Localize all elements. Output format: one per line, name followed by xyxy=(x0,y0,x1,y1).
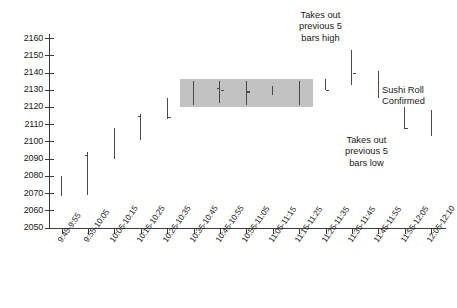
annotation-line: previous 5 xyxy=(345,146,388,157)
annotation-line: Confirmed xyxy=(382,96,425,107)
y-axis-tick-label: 2110 xyxy=(0,120,43,129)
y-axis-tick xyxy=(45,107,54,108)
annotation-takes-out-previous-5-bars-high: Takes outprevious 5bars high xyxy=(299,10,342,44)
ohlc-open-tick xyxy=(138,116,141,117)
y-axis-line xyxy=(49,34,50,229)
y-axis-tick-label-text: 2130 xyxy=(24,85,43,94)
y-axis-tick xyxy=(45,38,54,39)
annotation-takes-out-previous-5-bars-low: Takes outprevious 5bars low xyxy=(345,135,388,169)
ohlc-close-tick xyxy=(221,90,224,91)
y-axis-tick xyxy=(45,124,54,125)
y-axis-tick-label-text: 2140 xyxy=(24,68,43,77)
annotation-line: bars high xyxy=(299,33,342,44)
y-axis-tick xyxy=(45,228,54,229)
annotation-line: bars low xyxy=(345,158,388,169)
y-axis-tick-label: 2160 xyxy=(0,34,43,43)
ohlc-bar xyxy=(219,81,220,103)
y-axis-tick-label: 2150 xyxy=(0,51,43,60)
ohlc-close-tick xyxy=(247,91,250,92)
y-axis-tick xyxy=(45,73,54,74)
ohlc-bar xyxy=(246,81,247,105)
y-axis-tick-label-text: 2090 xyxy=(24,154,43,163)
ohlc-close-tick xyxy=(405,128,408,129)
y-axis-tick-label-text: 2110 xyxy=(24,120,43,129)
ohlc-open-tick xyxy=(217,88,220,89)
ohlc-bar xyxy=(378,71,379,99)
y-axis-tick-label: 2100 xyxy=(0,137,43,146)
y-axis-tick xyxy=(45,210,54,211)
ohlc-bar xyxy=(87,152,88,195)
y-axis-tick-label: 2070 xyxy=(0,189,43,198)
annotation-line: Sushi Roll xyxy=(382,85,425,96)
ohlc-close-tick xyxy=(353,73,356,74)
ohlc-bar xyxy=(272,86,273,95)
y-axis-tick-label: 2060 xyxy=(0,206,43,215)
annotation-line: Takes out xyxy=(299,10,342,21)
ohlc-close-tick xyxy=(168,117,171,118)
ohlc-bar xyxy=(140,114,141,140)
ohlc-bar xyxy=(404,107,405,129)
ohlc-bar xyxy=(299,81,300,105)
y-axis-tick-label: 2090 xyxy=(0,154,43,163)
ohlc-bar xyxy=(114,128,115,159)
y-axis-tick xyxy=(45,55,54,56)
y-axis-tick-label: 2130 xyxy=(0,85,43,94)
ohlc-bar xyxy=(325,79,326,89)
ohlc-bar xyxy=(431,110,432,136)
y-axis-tick-label-text: 2070 xyxy=(24,189,43,198)
y-axis-tick xyxy=(45,90,54,91)
ohlc-bar xyxy=(351,50,352,85)
y-axis-tick-label-text: 2080 xyxy=(24,171,43,180)
ohlc-open-tick xyxy=(85,155,88,156)
y-axis-tick-label-text: 2100 xyxy=(24,137,43,146)
y-axis-tick-label: 2080 xyxy=(0,171,43,180)
annotation-sushi-roll-confirmed: Sushi RollConfirmed xyxy=(382,85,425,108)
y-axis-tick-label-text: 2060 xyxy=(24,206,43,215)
annotation-line: Takes out xyxy=(345,135,388,146)
ohlc-bar xyxy=(61,176,62,197)
y-axis-tick-label-text: 2120 xyxy=(24,102,43,111)
y-axis-tick xyxy=(45,193,54,194)
y-axis-tick xyxy=(45,176,54,177)
ohlc-close-tick xyxy=(326,90,329,91)
y-axis-tick-label: 2050 xyxy=(0,223,43,232)
ohlc-bar xyxy=(167,98,168,119)
y-axis-tick-label: 2120 xyxy=(0,102,43,111)
ohlc-bar xyxy=(193,81,194,105)
y-axis-tick-label-text: 2050 xyxy=(24,223,43,232)
y-axis-tick xyxy=(45,141,54,142)
annotation-line: previous 5 xyxy=(299,21,342,32)
y-axis-tick xyxy=(45,159,54,160)
y-axis-tick-label-text: 2160 xyxy=(24,34,43,43)
y-axis-tick-label-text: 2150 xyxy=(24,51,43,60)
y-axis-tick-label: 2140 xyxy=(0,68,43,77)
